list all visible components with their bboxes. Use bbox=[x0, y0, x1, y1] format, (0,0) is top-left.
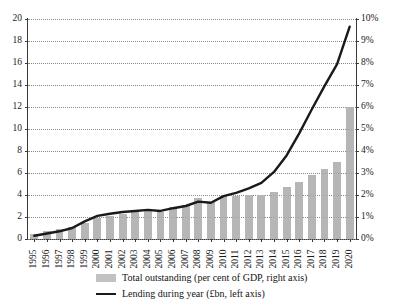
x-axis-tick-label: 2015 bbox=[281, 249, 291, 268]
gridline-over-bar bbox=[333, 217, 341, 218]
bar bbox=[43, 231, 51, 239]
gridline-over-bar bbox=[308, 195, 316, 196]
x-axis-tick bbox=[72, 239, 73, 242]
bar bbox=[245, 195, 253, 239]
y-axis-right-tick bbox=[356, 173, 359, 174]
y-axis-right-tick bbox=[356, 239, 359, 240]
bar bbox=[81, 223, 89, 240]
y-axis-right-tick-label: 2% bbox=[361, 190, 387, 200]
y-axis-right-tick-label: 9% bbox=[361, 36, 387, 46]
bar bbox=[321, 169, 329, 239]
x-axis-tick-label: 2009 bbox=[205, 249, 215, 268]
gridline bbox=[28, 217, 356, 218]
x-axis-tick-label: 2007 bbox=[180, 249, 190, 268]
gridline-over-bar bbox=[346, 195, 354, 196]
x-axis-tick bbox=[110, 239, 111, 242]
y-axis-right-tick bbox=[356, 19, 359, 20]
gridline-over-bar bbox=[333, 195, 341, 196]
y-axis-left-tick-label: 4 bbox=[0, 190, 22, 200]
x-axis-tick-label: 2019 bbox=[332, 249, 342, 268]
legend-label: Lending during year (£bn, left axis) bbox=[122, 288, 265, 299]
y-axis-left-tick-label: 6 bbox=[0, 168, 22, 178]
y-axis-right-tick-label: 10% bbox=[361, 14, 387, 24]
x-axis-tick-label: 2006 bbox=[168, 249, 178, 268]
gridline-over-bar bbox=[106, 217, 114, 218]
plot-area bbox=[28, 19, 356, 239]
gridline-over-bar bbox=[308, 217, 316, 218]
x-axis-tick bbox=[47, 239, 48, 242]
gridline bbox=[28, 129, 356, 130]
legend-item-total-outstanding: Total outstanding (per cent of GDP, righ… bbox=[96, 271, 396, 284]
x-axis-tick bbox=[34, 239, 35, 242]
x-axis-tick-label: 2003 bbox=[130, 249, 140, 268]
bar bbox=[106, 216, 114, 239]
gridline-over-bar bbox=[283, 195, 291, 196]
x-axis-tick-label: 1996 bbox=[41, 249, 51, 268]
gridline-over-bar bbox=[232, 217, 240, 218]
x-axis-tick bbox=[123, 239, 124, 242]
x-axis-tick bbox=[173, 239, 174, 242]
y-axis-right-tick-label: 8% bbox=[361, 58, 387, 68]
gridline-over-bar bbox=[295, 217, 303, 218]
bar-swatch-icon bbox=[96, 274, 116, 282]
legend-label: Total outstanding (per cent of GDP, righ… bbox=[122, 272, 307, 283]
y-axis-right-tick bbox=[356, 129, 359, 130]
gridline-over-bar bbox=[283, 217, 291, 218]
y-axis-left-tick-label: 12 bbox=[0, 102, 22, 112]
x-axis-tick bbox=[274, 239, 275, 242]
y-axis-left-tick-label: 2 bbox=[0, 212, 22, 222]
x-axis-tick bbox=[97, 239, 98, 242]
bar bbox=[346, 107, 354, 239]
gridline bbox=[28, 195, 356, 196]
gridline-over-bar bbox=[220, 217, 228, 218]
bar bbox=[270, 192, 278, 239]
gridline-over-bar bbox=[346, 217, 354, 218]
gridline bbox=[28, 151, 356, 152]
x-axis-tick-label: 2017 bbox=[306, 249, 316, 268]
gridline-over-bar bbox=[346, 129, 354, 130]
x-axis-tick-label: 2020 bbox=[344, 249, 354, 268]
bar bbox=[56, 229, 64, 239]
x-axis-tick-label: 2018 bbox=[319, 249, 329, 268]
bar bbox=[295, 182, 303, 239]
bar bbox=[131, 212, 139, 240]
gridline-over-bar bbox=[157, 217, 165, 218]
y-axis-right-tick-label: 7% bbox=[361, 80, 387, 90]
x-axis-tick-label: 1998 bbox=[67, 249, 77, 268]
y-axis-right-tick-label: 6% bbox=[361, 102, 387, 112]
gridline-over-bar bbox=[182, 217, 190, 218]
x-axis-tick-label: 2016 bbox=[294, 249, 304, 268]
x-axis-tick bbox=[60, 239, 61, 242]
x-axis-tick-label: 2001 bbox=[105, 249, 115, 268]
bar bbox=[119, 214, 127, 239]
x-axis-tick-label: 2010 bbox=[218, 249, 228, 268]
x-axis-tick-label: 2011 bbox=[231, 249, 241, 268]
y-axis-left-tick-label: 10 bbox=[0, 124, 22, 134]
x-axis-tick bbox=[337, 239, 338, 242]
y-axis-right-tick bbox=[356, 107, 359, 108]
bar bbox=[257, 195, 265, 239]
bar bbox=[283, 187, 291, 239]
y-axis-right-tick-label: 3% bbox=[361, 168, 387, 178]
gridline-over-bar bbox=[333, 173, 341, 174]
bar bbox=[333, 162, 341, 239]
x-axis-tick bbox=[186, 239, 187, 242]
legend-item-lending-during-year: Lending during year (£bn, left axis) bbox=[96, 287, 396, 300]
x-axis-tick bbox=[287, 239, 288, 242]
gridline-over-bar bbox=[321, 173, 329, 174]
bar bbox=[93, 218, 101, 239]
gridline-over-bar bbox=[245, 217, 253, 218]
bar bbox=[194, 198, 202, 239]
y-axis-right-tick bbox=[356, 195, 359, 196]
y-axis-left-tick-label: 18 bbox=[0, 36, 22, 46]
gridline bbox=[28, 19, 356, 20]
x-axis-tick bbox=[324, 239, 325, 242]
x-axis-tick-label: 2012 bbox=[243, 249, 253, 268]
gridline-over-bar bbox=[207, 217, 215, 218]
bar bbox=[220, 196, 228, 239]
bar bbox=[308, 175, 316, 239]
bar bbox=[144, 209, 152, 239]
gridline-over-bar bbox=[346, 151, 354, 152]
gridline bbox=[28, 173, 356, 174]
gridline-over-bar bbox=[257, 217, 265, 218]
